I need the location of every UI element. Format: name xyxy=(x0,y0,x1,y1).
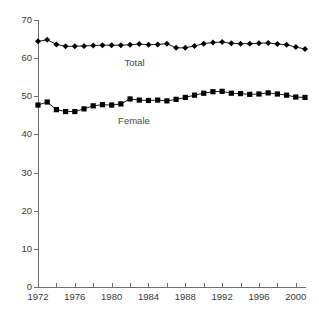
data-point-female xyxy=(220,89,225,94)
plot-series-layer xyxy=(0,0,319,321)
data-point-total xyxy=(238,41,244,47)
data-point-total xyxy=(302,46,308,52)
data-point-female xyxy=(118,101,123,106)
data-point-total xyxy=(145,42,151,48)
data-point-female xyxy=(192,93,197,98)
data-point-total xyxy=(219,39,225,45)
data-point-total xyxy=(44,37,50,43)
data-point-female xyxy=(72,109,77,114)
data-point-total xyxy=(192,43,198,49)
data-point-female xyxy=(35,102,40,107)
data-point-female xyxy=(201,91,206,96)
data-point-total xyxy=(284,42,290,48)
data-point-female xyxy=(109,102,114,107)
chart-container: 010203040506070 197219761980198419881992… xyxy=(0,0,319,321)
data-point-female xyxy=(275,91,280,96)
data-point-total xyxy=(63,43,69,49)
data-point-female xyxy=(63,109,68,114)
data-point-female xyxy=(256,91,261,96)
data-point-total xyxy=(201,41,207,47)
data-point-total xyxy=(72,43,78,49)
data-point-female xyxy=(284,93,289,98)
data-point-total xyxy=(164,41,170,47)
series-label-total: Total xyxy=(125,57,145,68)
data-point-total xyxy=(274,41,280,47)
data-point-female xyxy=(164,98,169,103)
data-point-female xyxy=(127,96,132,101)
data-point-female xyxy=(183,95,188,100)
series-line-female xyxy=(38,91,305,111)
data-point-female xyxy=(302,95,307,100)
data-point-total xyxy=(247,41,253,47)
data-point-female xyxy=(266,90,271,95)
data-point-female xyxy=(174,97,179,102)
data-point-total xyxy=(53,41,59,47)
data-point-total xyxy=(210,40,216,46)
data-point-total xyxy=(182,45,188,51)
data-point-female xyxy=(229,91,234,96)
data-point-total xyxy=(81,43,87,49)
data-point-female xyxy=(155,98,160,103)
data-point-total xyxy=(293,44,299,50)
data-point-female xyxy=(293,94,298,99)
data-point-female xyxy=(100,102,105,107)
series-label-female: Female xyxy=(118,115,150,126)
data-point-total xyxy=(99,42,105,48)
data-point-female xyxy=(238,91,243,96)
data-point-total xyxy=(35,38,41,44)
data-point-female xyxy=(91,103,96,108)
data-point-total xyxy=(90,43,96,49)
data-point-female xyxy=(210,89,215,94)
data-point-female xyxy=(54,107,59,112)
data-point-total xyxy=(228,40,234,46)
data-point-total xyxy=(127,42,133,48)
data-point-female xyxy=(45,99,50,104)
data-point-female xyxy=(137,98,142,103)
series-line-total xyxy=(38,40,305,49)
data-point-female xyxy=(146,98,151,103)
data-point-total xyxy=(265,40,271,46)
data-point-total xyxy=(109,42,115,48)
data-point-total xyxy=(155,41,161,47)
data-point-total xyxy=(136,41,142,47)
data-point-female xyxy=(247,92,252,97)
data-point-total xyxy=(256,40,262,46)
data-point-total xyxy=(118,42,124,48)
data-point-female xyxy=(81,106,86,111)
data-point-total xyxy=(173,45,179,51)
